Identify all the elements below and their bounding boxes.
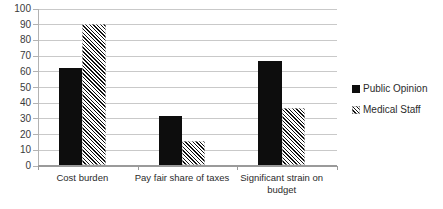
y-axis-tick-label: 90 bbox=[20, 20, 31, 30]
y-axis-tick-label: 0 bbox=[25, 161, 31, 171]
bar-public-opinion bbox=[59, 68, 82, 165]
y-axis-tick bbox=[33, 87, 38, 88]
legend-label: Medical Staff bbox=[363, 104, 421, 115]
y-axis-tick-label: 60 bbox=[20, 67, 31, 77]
x-axis-category-label: Cost burden bbox=[33, 172, 133, 184]
bar-chart: 0102030405060708090100 Cost burdenPay fa… bbox=[0, 0, 443, 209]
y-axis-tick-label: 20 bbox=[20, 130, 31, 140]
y-axis-tick-label: 50 bbox=[20, 83, 31, 93]
x-axis-tick bbox=[337, 166, 338, 170]
x-axis-tick bbox=[38, 166, 39, 170]
legend-swatch-icon bbox=[352, 85, 360, 93]
y-axis-tick bbox=[33, 71, 38, 72]
legend-item: Public Opinion bbox=[352, 83, 442, 94]
y-axis-tick bbox=[33, 134, 38, 135]
y-axis-tick-label: 10 bbox=[20, 145, 31, 155]
y-axis-tick bbox=[33, 150, 38, 151]
y-axis-tick bbox=[33, 9, 38, 10]
y-axis-tick bbox=[33, 103, 38, 104]
chart-legend: Public OpinionMedical Staff bbox=[352, 83, 442, 125]
y-axis-tick-label: 40 bbox=[20, 98, 31, 108]
x-axis-tick bbox=[237, 166, 238, 170]
gridline bbox=[38, 9, 337, 10]
bar-public-opinion bbox=[258, 61, 281, 165]
x-axis-category-label: Pay fair share of taxes bbox=[132, 172, 232, 184]
plot-area: 0102030405060708090100 bbox=[38, 9, 337, 166]
bar-medical-staff bbox=[82, 24, 105, 165]
x-axis-tick bbox=[138, 166, 139, 170]
legend-label: Public Opinion bbox=[363, 83, 427, 94]
y-axis-line bbox=[38, 9, 39, 166]
bar-public-opinion bbox=[159, 116, 182, 165]
y-axis-tick-label: 70 bbox=[20, 51, 31, 61]
y-axis-tick bbox=[33, 40, 38, 41]
bar-medical-staff bbox=[182, 141, 205, 165]
y-axis-tick-label: 30 bbox=[20, 114, 31, 124]
y-axis-tick-label: 100 bbox=[14, 4, 31, 14]
bar-medical-staff bbox=[282, 108, 305, 165]
legend-item: Medical Staff bbox=[352, 104, 442, 115]
x-axis-line bbox=[38, 165, 337, 166]
y-axis-tick-label: 80 bbox=[20, 35, 31, 45]
legend-swatch-icon bbox=[352, 106, 360, 114]
y-axis-tick bbox=[33, 24, 38, 25]
y-axis-tick bbox=[33, 56, 38, 57]
y-axis-tick bbox=[33, 118, 38, 119]
x-axis-category-label: Significant strain on budget bbox=[232, 172, 332, 196]
